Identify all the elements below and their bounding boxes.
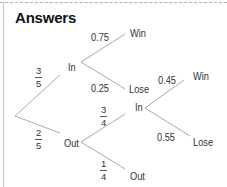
node-in-lose: Lose [129, 83, 149, 95]
prob-out-in-denominator: 4 [101, 117, 106, 128]
prob-out-fraction: 2 5 [35, 128, 42, 151]
prob-out-out-numerator: 1 [100, 159, 107, 171]
node-outin-win: Win [193, 70, 209, 82]
prob-out-out-fraction: 1 4 [100, 159, 107, 182]
prob-in-numerator: 3 [35, 66, 42, 78]
prob-out-out-denominator: 4 [101, 171, 106, 182]
node-out-in: In [135, 101, 143, 113]
node-in: In [68, 61, 76, 73]
answers-panel: Answers In Out Win Lose In Out Win Lose … [0, 0, 227, 187]
tree-diagram-lines [0, 0, 227, 187]
prob-out-in-fraction: 3 4 [100, 105, 107, 128]
prob-in-win: 0.75 [91, 31, 109, 43]
node-in-win: Win [130, 27, 146, 39]
prob-out-numerator: 2 [35, 128, 42, 140]
prob-outin-win: 0.45 [158, 74, 176, 86]
prob-out-denominator: 5 [36, 140, 41, 151]
node-out-out: Out [130, 170, 145, 182]
node-outin-lose: Lose [193, 136, 213, 148]
prob-in-fraction: 3 5 [35, 66, 42, 89]
prob-in-denominator: 5 [36, 78, 41, 89]
prob-out-in-numerator: 3 [100, 105, 107, 117]
prob-in-lose: 0.25 [91, 82, 109, 94]
prob-outin-lose: 0.55 [157, 131, 175, 143]
node-out: Out [64, 137, 79, 149]
